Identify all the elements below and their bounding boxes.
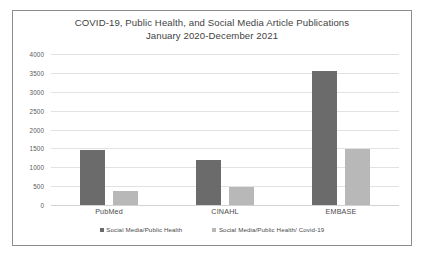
y-axis-tick-label: 500 — [33, 183, 44, 190]
y-axis-tick-label: 4000 — [30, 51, 44, 58]
gridline — [51, 205, 399, 206]
x-axis-tick-label: EMBASE — [326, 207, 357, 216]
bar — [80, 150, 105, 205]
x-axis-tick-label: PubMed — [95, 207, 123, 216]
bar-group — [283, 54, 399, 205]
y-axis-tick-labels: 05001000150020002500300035004000 — [13, 54, 47, 205]
bar-group — [167, 54, 283, 205]
bar — [229, 187, 254, 205]
legend-swatch-icon — [100, 228, 104, 232]
y-axis-tick-label: 0 — [40, 202, 44, 209]
chart-legend: Social Media/Public HealthSocial Media/P… — [13, 226, 411, 233]
y-axis-tick-label: 3000 — [30, 88, 44, 95]
chart-title-line-2: January 2020-December 2021 — [13, 30, 411, 43]
y-axis-tick-label: 1500 — [30, 145, 44, 152]
plot-area — [51, 54, 399, 205]
chart-title: COVID-19, Public Health, and Social Medi… — [13, 17, 411, 42]
legend-item: Social Media/Public Health/ Covid-19 — [212, 226, 324, 233]
bar — [196, 160, 221, 205]
legend-swatch-icon — [212, 228, 216, 232]
legend-label: Social Media/Public Health/ Covid-19 — [219, 226, 324, 233]
x-axis-tick-label: CINAHL — [211, 207, 238, 216]
bar — [113, 191, 138, 205]
y-axis-tick-label: 2500 — [30, 107, 44, 114]
x-axis-tick-labels: PubMedCINAHLEMBASE — [51, 207, 399, 221]
bar-group — [51, 54, 167, 205]
bar — [345, 149, 370, 205]
y-axis-tick-label: 2000 — [30, 126, 44, 133]
legend-item: Social Media/Public Health — [100, 226, 183, 233]
legend-label: Social Media/Public Health — [106, 226, 182, 233]
bar — [312, 71, 337, 205]
chart-frame: COVID-19, Public Health, and Social Medi… — [12, 10, 412, 246]
chart-title-line-1: COVID-19, Public Health, and Social Medi… — [13, 17, 411, 30]
y-axis-tick-label: 3500 — [30, 69, 44, 76]
y-axis-tick-label: 1000 — [30, 164, 44, 171]
